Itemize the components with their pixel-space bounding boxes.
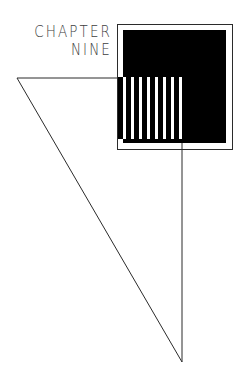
stripe-bar (174, 77, 179, 139)
chapter-divider-page: CHAPTER NINE (0, 0, 247, 367)
chapter-heading: CHAPTER NINE (0, 22, 112, 57)
stripe-bar (182, 77, 187, 139)
chapter-heading-line-1: CHAPTER (0, 22, 112, 42)
stripe-bar (166, 77, 171, 139)
stripe-bar (126, 77, 131, 139)
chapter-word: CHAPTER (34, 22, 112, 42)
stripe-bar (118, 77, 123, 139)
stripe-bar (158, 77, 163, 139)
chapter-number-word: NINE (71, 40, 112, 60)
vertical-stripe-band (118, 77, 187, 139)
stripe-bar (150, 77, 155, 139)
chapter-heading-line-2: NINE (0, 40, 112, 60)
stripe-bar (142, 77, 147, 139)
stripe-bar (134, 77, 139, 139)
